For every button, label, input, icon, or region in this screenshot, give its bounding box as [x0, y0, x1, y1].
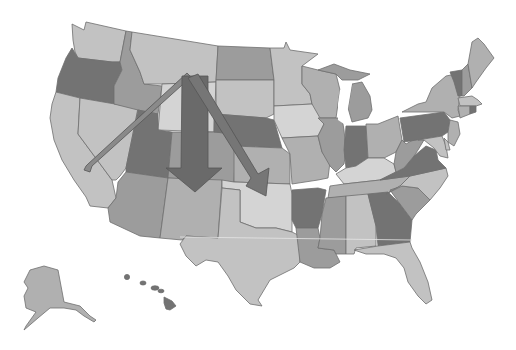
state-new-jersey: [448, 120, 460, 146]
state-florida: [354, 242, 432, 304]
us-map: United States map with migration arrows: [0, 0, 516, 350]
state-washington: [72, 22, 126, 62]
state-maine: [468, 38, 494, 88]
state-north-dakota: [216, 46, 274, 80]
state-connecticut: [458, 106, 470, 118]
map-canvas: [0, 0, 516, 350]
state-south-dakota: [216, 80, 274, 118]
state-massachusetts: [458, 96, 482, 106]
state-new-york: [402, 74, 460, 118]
state-michigan: [348, 82, 372, 122]
state-rhode-island: [470, 106, 476, 114]
state-arizona: [108, 172, 168, 238]
state-hawaii: [124, 274, 176, 310]
state-alaska: [24, 266, 96, 330]
state-arkansas: [292, 188, 326, 228]
